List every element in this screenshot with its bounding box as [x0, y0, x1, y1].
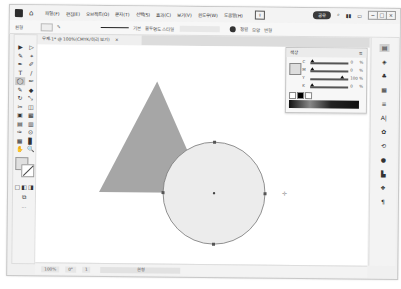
slider-track[interactable]	[310, 62, 348, 64]
zoom-level[interactable]: 100%	[41, 266, 59, 272]
tool-button[interactable]: ▷	[27, 43, 37, 51]
tool-button[interactable]: ✑	[15, 128, 25, 136]
tool-button[interactable]: ✒	[15, 60, 25, 68]
transform-icon[interactable]: ⟲	[378, 142, 388, 150]
style-field[interactable]	[180, 25, 220, 31]
tool-button[interactable]: ◫	[26, 103, 36, 111]
slider-handle[interactable]	[310, 59, 314, 62]
stroke-preview[interactable]	[101, 27, 129, 29]
slider-handle[interactable]	[310, 67, 314, 70]
appearance-icon[interactable]: ●	[378, 156, 388, 164]
tool-button[interactable]: ✎	[15, 86, 25, 94]
slider-handle[interactable]	[341, 75, 345, 78]
menu-view[interactable]: 보기(V)	[177, 11, 192, 17]
more-tools-icon[interactable]: ···	[13, 204, 35, 210]
tool-button[interactable]: T	[15, 69, 25, 77]
artboard-number[interactable]: 1	[82, 266, 91, 272]
screen-mode-icon[interactable]: ⧉	[13, 193, 35, 201]
tool-button[interactable]: ▦	[26, 111, 36, 119]
fill-swatch[interactable]	[41, 23, 53, 31]
menu-type[interactable]: 문자(T)	[115, 11, 129, 17]
tool-button[interactable]: ✎	[15, 52, 25, 60]
tool-button[interactable]: ◯	[15, 77, 25, 85]
menu-select[interactable]: 선택(S)	[136, 11, 151, 17]
tool-button[interactable]: ◆	[26, 86, 36, 94]
pathfinder-icon[interactable]: ❖	[378, 184, 388, 192]
draw-behind-icon[interactable]: ◧	[21, 183, 27, 190]
tool-button[interactable]: ✐	[26, 60, 36, 68]
arrange-icon[interactable]: ▭	[357, 12, 362, 18]
current-tool-name[interactable]: 원형	[101, 266, 181, 273]
paragraph-icon[interactable]: ¶	[378, 198, 388, 206]
tool-button[interactable]: ▦	[15, 137, 25, 145]
workspace-icon[interactable]: ▮▮	[346, 12, 352, 18]
symbols-icon[interactable]: ✿	[379, 128, 389, 136]
transform-link[interactable]: 변형	[264, 26, 272, 32]
menu-file[interactable]: 파일(F)	[45, 10, 59, 16]
recolor-icon[interactable]	[230, 26, 236, 32]
share-cloud-button[interactable]: 공유	[313, 11, 331, 19]
slider-handle[interactable]	[310, 83, 314, 86]
properties-icon[interactable]: ▤	[380, 44, 390, 52]
libraries-icon[interactable]: ♣	[379, 72, 389, 80]
tool-button[interactable]: ▤	[15, 120, 25, 128]
slider-track[interactable]	[310, 70, 348, 72]
search-icon[interactable]: ⌕	[337, 11, 340, 18]
tool-button[interactable]: ⤡	[26, 94, 36, 102]
tool-button[interactable]: ▶	[16, 43, 26, 51]
draw-normal-icon[interactable]: ▢	[15, 183, 21, 190]
color-spectrum[interactable]	[289, 100, 359, 109]
panel-menu-icon[interactable]: ≡	[359, 49, 363, 58]
fill-stroke-control[interactable]	[15, 157, 33, 179]
slider-value[interactable]: 0	[350, 67, 353, 75]
tool-button[interactable]: ↻	[15, 94, 25, 102]
slider-value[interactable]: 0	[350, 83, 353, 91]
align-link[interactable]: 정렬	[240, 26, 248, 32]
rotation-field[interactable]: 0°	[65, 266, 76, 272]
menu-help[interactable]: 도움말(H)	[224, 12, 243, 18]
swatches-icon[interactable]: ▦	[379, 86, 389, 94]
anchor-bottom[interactable]	[212, 243, 215, 246]
close-tab-icon[interactable]: ×	[115, 37, 119, 42]
color-panel-header[interactable]: 색상 ≡	[286, 48, 366, 58]
menu-edit[interactable]: 편집(E)	[66, 10, 81, 16]
slider-value[interactable]: 0	[350, 59, 353, 67]
tool-button[interactable]: ▊	[26, 137, 36, 145]
tool-button[interactable]: ▣	[15, 111, 25, 119]
none-swatch[interactable]	[289, 92, 296, 99]
tool-button[interactable]: 🔍	[25, 145, 35, 153]
menu-effect[interactable]: 효과(C)	[156, 11, 171, 17]
shape-link[interactable]: 모양	[252, 26, 260, 32]
menu-window[interactable]: 윈도우(W)	[198, 11, 218, 17]
home-icon[interactable]: ⌂	[29, 9, 34, 17]
white-swatch[interactable]	[305, 92, 312, 99]
align-icon[interactable]: ▙	[378, 170, 388, 178]
tool-button[interactable]: ▥	[26, 120, 36, 128]
menu-object[interactable]: 오브젝트(O)	[86, 10, 109, 16]
anchor-top[interactable]	[213, 141, 216, 144]
anchor-right[interactable]	[264, 192, 267, 195]
black-swatch[interactable]	[297, 92, 304, 99]
opacity-style-label[interactable]: 불투명도 스타일	[145, 25, 174, 31]
anchor-left[interactable]	[162, 191, 165, 194]
tool-button[interactable]: ✂	[15, 103, 25, 111]
close-button[interactable]: ×	[387, 12, 395, 19]
brush-icon[interactable]: ✎	[57, 25, 61, 30]
color-panel: 색상 ≡ C0%M0%Y100%K0%	[285, 47, 368, 114]
maximize-button[interactable]: □	[378, 12, 387, 19]
stroke-profile-label[interactable]: 기본	[133, 25, 141, 31]
draw-inside-icon[interactable]: ◨	[28, 183, 34, 190]
tool-button[interactable]: /	[26, 69, 36, 77]
stroke-icon[interactable]: ≡	[379, 100, 389, 108]
minimize-button[interactable]: −	[369, 12, 378, 19]
layers-icon[interactable]: ◈	[379, 58, 389, 66]
character-icon[interactable]: A|	[379, 114, 389, 122]
tool-button[interactable]: ⊙	[26, 128, 36, 136]
tool-button[interactable]: ⌖	[26, 52, 36, 60]
slider-value[interactable]: 100	[350, 75, 358, 83]
tool-button[interactable]: ✋	[14, 145, 24, 153]
share-icon[interactable]: ⇪	[255, 11, 265, 20]
slider-track[interactable]	[310, 86, 348, 88]
stroke-color-box[interactable]	[21, 164, 34, 177]
tool-button[interactable]: ✏	[26, 77, 36, 85]
